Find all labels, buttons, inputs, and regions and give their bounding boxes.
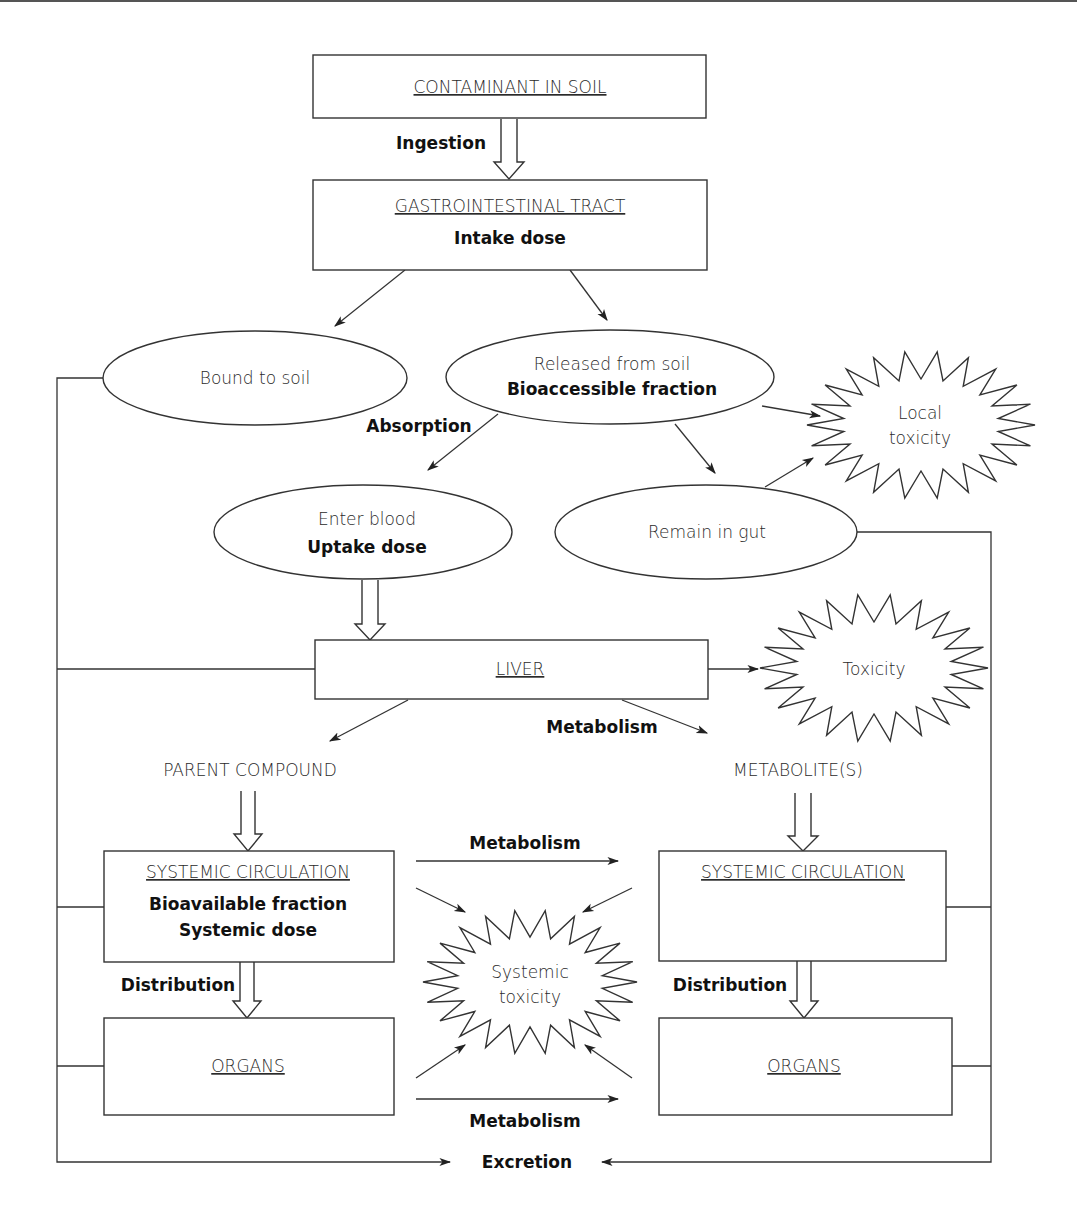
starburst-label: Toxicity [843,659,906,679]
ellipse-remain-in-gut: Remain in gut [555,485,857,579]
box-line-2: Systemic dose [179,920,317,940]
box-title: ORGANS [767,1056,841,1076]
box-gastrointestinal-tract: GASTROINTESTINAL TRACT Intake dose [313,180,707,270]
starburst-line-2: toxicity [889,428,951,448]
ellipse-line-1: Released from soil [534,354,690,374]
starburst-local-toxicity: Local toxicity [807,352,1035,498]
diagram-canvas: CONTAMINANT IN SOIL GASTROINTESTINAL TRA… [0,0,1077,1219]
box-title: SYSTEMIC CIRCULATION [146,862,350,882]
box-title: ORGANS [211,1056,285,1076]
starburst-line-1: Local [898,403,942,423]
box-contaminant-in-soil: CONTAMINANT IN SOIL [313,55,706,118]
starburst-toxicity: Toxicity [760,595,988,741]
box-systemic-circulation-left: SYSTEMIC CIRCULATION Bioavailable fracti… [104,851,394,962]
box-title: SYSTEMIC CIRCULATION [701,862,905,882]
starburst-line-1: Systemic [491,962,568,982]
starburst-line-2: toxicity [499,987,561,1007]
parent-compound-label: PARENT COMPOUND [163,760,337,780]
ellipse-line-2: Bioaccessible fraction [507,379,717,399]
box-organs-left: ORGANS [104,1018,394,1115]
box-title: LIVER [496,659,545,679]
metabolism-label-liver: Metabolism [546,717,657,737]
box-systemic-circulation-right: SYSTEMIC CIRCULATION [659,851,946,961]
ingestion-label: Ingestion [396,133,486,153]
metabolites-label: METABOLITE(S) [733,760,863,780]
ellipse-line-2: Uptake dose [307,537,426,557]
box-title: GASTROINTESTINAL TRACT [395,196,626,216]
metabolism-label-top: Metabolism [469,833,580,853]
ellipse-label: Remain in gut [648,522,766,542]
box-subtitle: Intake dose [454,228,566,248]
box-liver: LIVER [315,640,708,699]
box-title: CONTAMINANT IN SOIL [414,77,607,97]
starburst-systemic-toxicity: Systemic toxicity [423,911,637,1054]
ellipse-enter-blood: Enter blood Uptake dose [214,485,512,579]
distribution-label-left: Distribution [121,975,235,995]
ellipse-line-1: Enter blood [318,509,416,529]
metabolism-label-bottom: Metabolism [469,1111,580,1131]
ellipse-bound-to-soil: Bound to soil [103,331,407,425]
distribution-label-right: Distribution [673,975,787,995]
ellipse-label: Bound to soil [200,368,310,388]
ellipse-released-from-soil: Released from soil Bioaccessible fractio… [446,330,774,424]
excretion-label: Excretion [482,1152,572,1172]
absorption-label: Absorption [366,416,471,436]
box-line-1: Bioavailable fraction [149,894,347,914]
box-organs-right: ORGANS [659,1018,952,1115]
